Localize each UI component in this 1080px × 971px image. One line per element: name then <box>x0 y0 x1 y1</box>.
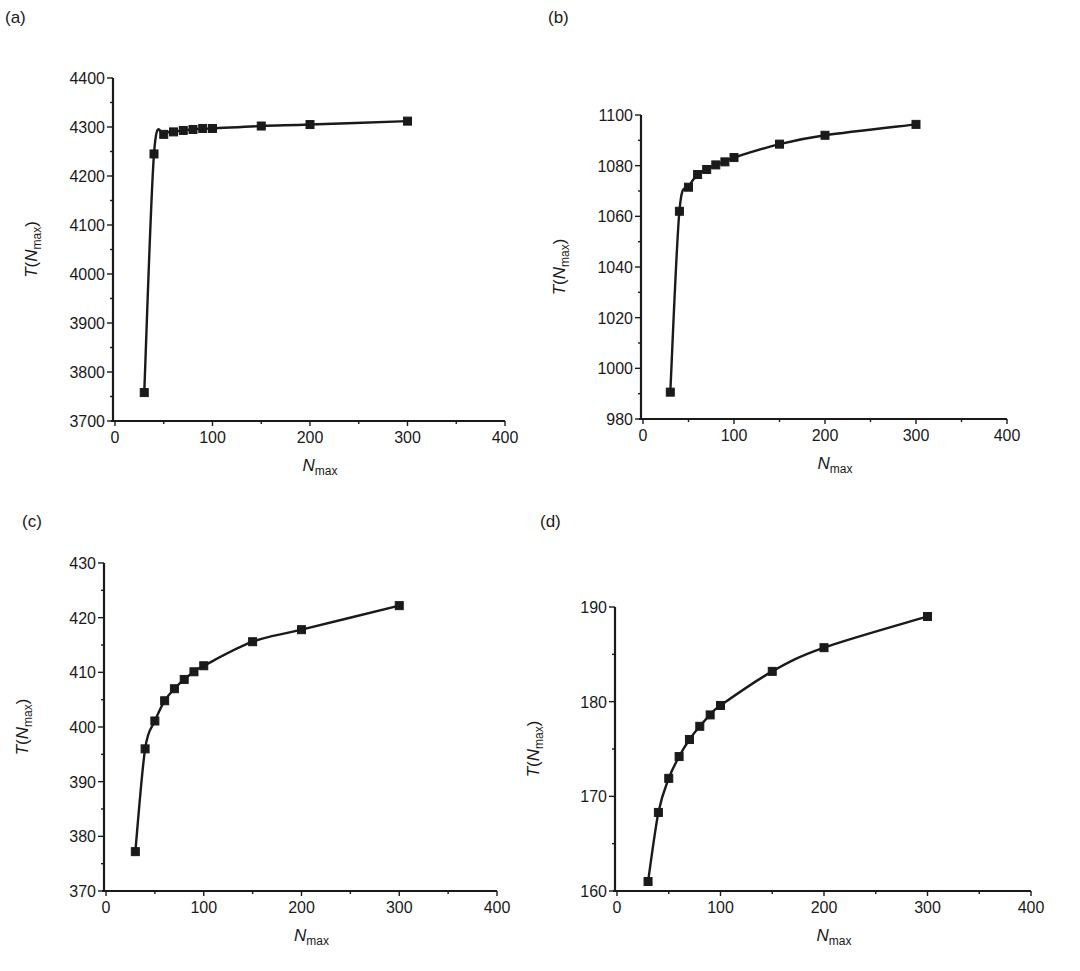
x-tick-label: 200 <box>288 899 315 916</box>
data-point-marker <box>706 711 714 719</box>
y-axis-label: T(Nmax) <box>524 721 546 778</box>
x-tick-label: 400 <box>994 427 1021 444</box>
data-point-marker <box>209 124 217 132</box>
x-tick-label: 300 <box>914 899 941 916</box>
data-point-marker <box>161 697 169 705</box>
x-axis-label: Nmax <box>817 926 852 948</box>
y-tick-label: 4200 <box>69 168 105 185</box>
y-tick-label: 3900 <box>69 315 105 332</box>
y-tick-label: 980 <box>606 411 633 428</box>
data-point-marker <box>160 130 168 138</box>
y-tick-label: 170 <box>580 788 607 805</box>
y-tick-label: 4000 <box>69 266 105 283</box>
y-tick-label: 1040 <box>597 259 633 276</box>
y-tick-label: 380 <box>69 828 96 845</box>
x-tick-label: 300 <box>394 429 421 446</box>
data-point-marker <box>768 667 776 675</box>
data-point-marker <box>666 388 674 396</box>
data-point-marker <box>249 638 257 646</box>
y-tick-label: 1100 <box>599 107 634 124</box>
y-axis-label: T(Nmax) <box>13 699 35 756</box>
y-tick-label: 4400 <box>69 70 105 87</box>
data-point-marker <box>140 389 148 397</box>
x-tick-label: 100 <box>190 899 217 916</box>
data-point-marker <box>404 117 412 125</box>
data-point-marker <box>820 644 828 652</box>
y-tick-label: 370 <box>69 883 96 900</box>
data-point-marker <box>776 140 784 148</box>
y-tick-label: 1080 <box>597 158 633 175</box>
x-tick-label: 100 <box>199 429 226 446</box>
data-point-marker <box>395 602 403 610</box>
y-tick-label: 3700 <box>69 413 105 430</box>
x-axis-label: Nmax <box>818 454 853 476</box>
data-point-marker <box>150 150 158 158</box>
data-point-marker <box>200 662 208 670</box>
data-point-marker <box>180 675 188 683</box>
data-line <box>670 124 916 392</box>
chart-panel-d: 0100200300400160170180190NmaxT(Nmax) <box>524 599 1044 948</box>
y-tick-label: 410 <box>69 664 96 681</box>
data-point-marker <box>654 808 662 816</box>
x-tick-label: 300 <box>386 899 413 916</box>
data-point-marker <box>717 701 725 709</box>
data-point-marker <box>189 125 197 133</box>
y-tick-label: 1020 <box>597 310 633 327</box>
data-line <box>144 121 407 392</box>
y-tick-label: 400 <box>69 719 96 736</box>
data-line <box>648 616 927 881</box>
data-point-marker <box>703 165 711 173</box>
x-tick-label: 200 <box>812 427 839 444</box>
data-line <box>135 606 399 852</box>
data-point-marker <box>821 131 829 139</box>
y-tick-label: 420 <box>69 610 96 627</box>
y-tick-label: 4100 <box>69 217 105 234</box>
x-tick-label: 400 <box>1018 899 1045 916</box>
x-tick-label: 200 <box>297 429 324 446</box>
y-tick-label: 430 <box>69 555 96 572</box>
data-point-marker <box>644 878 652 886</box>
data-point-marker <box>179 126 187 134</box>
data-point-marker <box>141 745 149 753</box>
data-point-marker <box>694 171 702 179</box>
y-tick-label: 3800 <box>69 364 105 381</box>
chart-panel-c: 0100200300400370380390400410420430NmaxT(… <box>13 555 510 948</box>
data-point-marker <box>712 161 720 169</box>
x-axis-label: Nmax <box>303 456 338 478</box>
data-point-marker <box>298 626 306 634</box>
data-point-marker <box>675 207 683 215</box>
x-tick-label: 100 <box>721 427 748 444</box>
data-point-marker <box>170 685 178 693</box>
x-tick-label: 400 <box>492 429 519 446</box>
y-tick-label: 180 <box>580 694 607 711</box>
data-point-marker <box>306 121 314 129</box>
x-tick-label: 200 <box>811 899 838 916</box>
data-point-marker <box>696 722 704 730</box>
x-tick-label: 0 <box>102 899 111 916</box>
y-tick-label: 390 <box>69 774 96 791</box>
data-point-marker <box>665 774 673 782</box>
data-point-marker <box>685 736 693 744</box>
y-tick-label: 160 <box>580 883 607 900</box>
data-point-marker <box>131 848 139 856</box>
data-point-marker <box>675 753 683 761</box>
y-tick-label: 4300 <box>69 119 105 136</box>
data-point-marker <box>151 717 159 725</box>
y-tick-label: 190 <box>580 599 607 616</box>
data-point-marker <box>199 124 207 132</box>
x-tick-label: 0 <box>639 427 648 444</box>
data-point-marker <box>912 120 920 128</box>
plots-canvas: 0100200300400370038003900400041004200430… <box>0 0 1080 971</box>
x-tick-label: 400 <box>484 899 511 916</box>
y-axis-label: T(Nmax) <box>22 221 44 278</box>
data-point-marker <box>170 128 178 136</box>
data-point-marker <box>685 183 693 191</box>
data-point-marker <box>257 122 265 130</box>
data-point-marker <box>924 612 932 620</box>
x-tick-label: 100 <box>707 899 734 916</box>
figure: (a) (b) (c) (d) 010020030040037003800390… <box>0 0 1080 971</box>
x-tick-label: 300 <box>903 427 930 444</box>
y-tick-label: 1000 <box>597 360 633 377</box>
y-tick-label: 1060 <box>597 208 633 225</box>
chart-panel-a: 0100200300400370038003900400041004200430… <box>22 70 518 478</box>
